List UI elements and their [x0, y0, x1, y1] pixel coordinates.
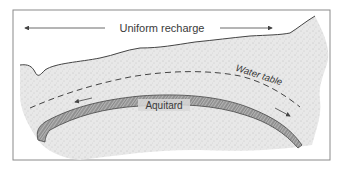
aquifer-diagram: Aquitard Water table Uniform recharge: [0, 0, 344, 182]
aquifer-body: [20, 16, 328, 160]
aquitard-label: Aquitard: [145, 100, 182, 111]
recharge-label: Uniform recharge: [120, 22, 205, 34]
